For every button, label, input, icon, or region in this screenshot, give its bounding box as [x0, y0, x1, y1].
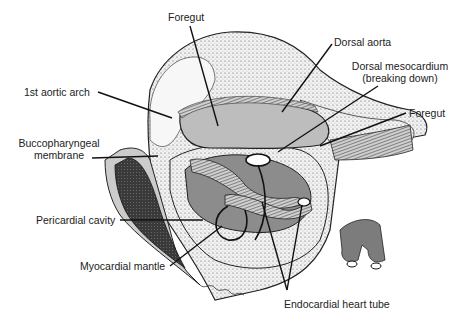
label-first-aortic-arch: 1st aortic arch [24, 86, 90, 98]
label-buccopharyngeal-line1: Buccopharyngeal [16, 137, 102, 149]
tube-cut-end [298, 198, 310, 206]
label-foregut-top: Foregut [168, 11, 204, 23]
label-pericardial-cavity: Pericardial cavity [36, 214, 115, 226]
label-dorsal-mesocardium-line2: (breaking down) [344, 72, 456, 84]
embryo-heart-diagram: Foregut Dorsal aorta Dorsal mesocardium … [0, 0, 460, 317]
veins [340, 220, 385, 262]
label-dorsal-mesocardium-line1: Dorsal mesocardium [344, 60, 456, 72]
label-endocardial-heart-tube: Endocardial heart tube [284, 298, 390, 310]
label-myocardial-mantle: Myocardial mantle [80, 260, 165, 272]
label-dorsal-mesocardium: Dorsal mesocardium (breaking down) [344, 60, 456, 84]
label-dorsal-aorta: Dorsal aorta [334, 36, 391, 48]
label-buccopharyngeal-line2: membrane [16, 149, 102, 161]
label-foregut-right: Foregut [409, 107, 445, 119]
label-buccopharyngeal-membrane: Buccopharyngeal membrane [16, 137, 102, 161]
mesocardium-opening [246, 154, 270, 166]
